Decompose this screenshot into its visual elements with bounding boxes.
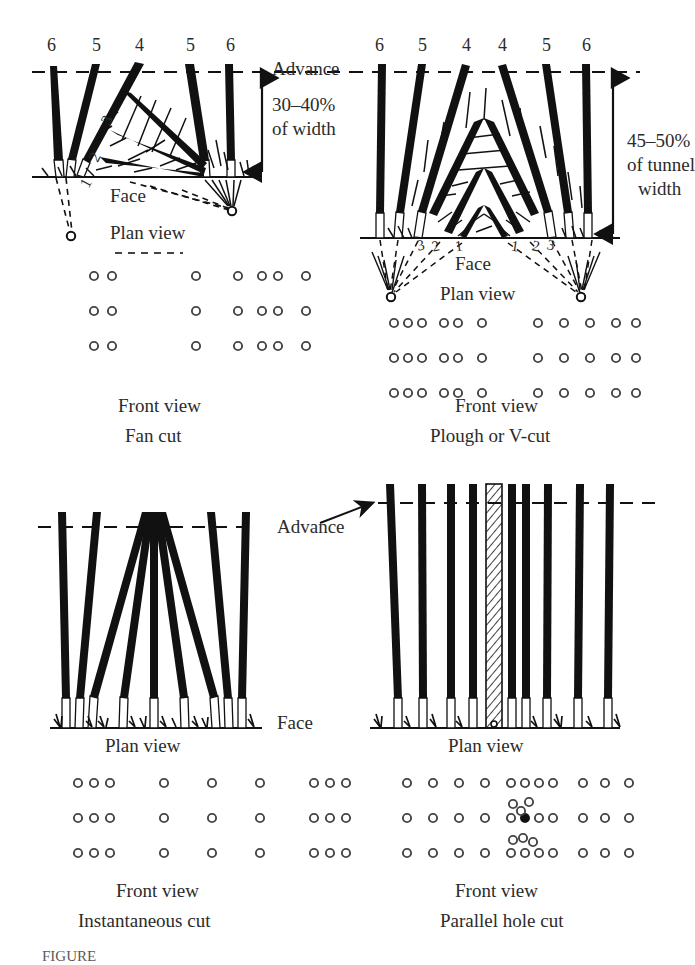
- plan-view-label-vcut: Plan view: [440, 283, 515, 305]
- blast-hole-dot: [342, 814, 350, 822]
- blast-hole-dot: [90, 849, 98, 857]
- blast-hole-dot: [534, 319, 542, 327]
- blast-hole-dot: [579, 849, 587, 857]
- blast-hole-dot: [549, 849, 557, 857]
- fan-rig-left: [67, 232, 75, 240]
- blast-hole-dot: [507, 849, 515, 857]
- blast-hole-dot: [302, 342, 310, 350]
- blast-hole-dot: [579, 779, 587, 787]
- blast-hole-dot: [509, 836, 517, 844]
- face-label-inst: Face: [277, 712, 313, 734]
- panel-title-fan: Fan cut: [125, 425, 181, 447]
- blast-hole-dot: [208, 779, 216, 787]
- blast-hole-dot: [560, 319, 568, 327]
- blast-hole-dot: [258, 272, 266, 280]
- blast-hole-dot: [521, 849, 529, 857]
- plan-view-label-inst: Plan view: [105, 735, 180, 757]
- blast-hole-dot: [418, 319, 426, 327]
- blast-hole-dot: [208, 814, 216, 822]
- blast-hole-dot: [429, 849, 437, 857]
- blast-hole-dot: [74, 779, 82, 787]
- panel-title-parallel: Parallel hole cut: [440, 910, 563, 932]
- plan-view-label-fan: Plan view: [110, 222, 185, 244]
- blast-hole-dot: [390, 354, 398, 362]
- dimension-label-vcut-line1: 45–50%: [627, 130, 690, 152]
- blast-hole-dot: [535, 779, 543, 787]
- blast-hole-dot: [106, 814, 114, 822]
- blast-hole-dot: [601, 849, 609, 857]
- blast-hole-dot: [525, 798, 533, 806]
- panel-title-inst: Instantaneous cut: [78, 910, 210, 932]
- panel-instantaneous-plan: [38, 512, 262, 728]
- blast-hole-dot: [455, 814, 463, 822]
- blast-hole-dot: [106, 849, 114, 857]
- blast-hole-dot: [534, 389, 542, 397]
- hole-number-fan-4: 5: [186, 35, 195, 56]
- blast-hole-dot: [256, 779, 264, 787]
- vcut-rig-left: [387, 293, 395, 301]
- advance-label-fan: Advance: [272, 58, 340, 80]
- face-label-fan: Face: [110, 185, 146, 207]
- blast-hole-dot: [517, 807, 525, 815]
- hole-number-vcut-4: 4: [498, 35, 507, 56]
- blast-hole-dot: [507, 814, 515, 822]
- dimension-label-vcut-line2: of tunnel: [627, 154, 695, 176]
- blast-hole-dot: [256, 849, 264, 857]
- blast-hole-dot: [534, 354, 542, 362]
- blast-hole-dot: [274, 307, 282, 315]
- blast-hole-dot: [160, 814, 168, 822]
- blast-hole-dot: [302, 307, 310, 315]
- blast-hole-dot: [234, 307, 242, 315]
- parallel-holes: [386, 484, 614, 728]
- blast-hole-dot: [90, 814, 98, 822]
- blast-hole-dot: [90, 342, 98, 350]
- blast-hole-dot: [404, 319, 412, 327]
- blast-hole-dot: [390, 319, 398, 327]
- blast-hole-dot: [106, 779, 114, 787]
- panel-parallel-plan: [320, 484, 655, 728]
- blast-hole-dot: [601, 814, 609, 822]
- fan-rig-right: [228, 207, 236, 215]
- blast-hole-dot: [454, 389, 462, 397]
- blast-hole-dot: [549, 814, 557, 822]
- blast-hole-dot: [478, 319, 486, 327]
- blast-hole-dot: [418, 354, 426, 362]
- hole-number-vcut-2: 5: [418, 35, 427, 56]
- blast-hole-dot: [90, 272, 98, 280]
- blast-hole-dot: [192, 307, 200, 315]
- blast-hole-dot: [612, 389, 620, 397]
- front-view-dots-inst: [62, 775, 364, 905]
- blast-hole-dot: [256, 814, 264, 822]
- blast-hole-dot: [478, 389, 486, 397]
- blast-hole-dot: [74, 814, 82, 822]
- blast-hole-dot: [519, 834, 527, 842]
- blast-hole-dot: [586, 389, 594, 397]
- vcut-holes: [376, 64, 592, 238]
- blast-hole-dot: [601, 779, 609, 787]
- blast-hole-dot: [326, 814, 334, 822]
- blast-hole-dot: [108, 342, 116, 350]
- blast-hole-dot: [549, 779, 557, 787]
- blast-hole-dot: [440, 354, 448, 362]
- blast-hole-dot: [418, 389, 426, 397]
- blast-hole-dot: [234, 342, 242, 350]
- blast-hole-dot: [326, 779, 334, 787]
- blast-hole-dot: [529, 838, 537, 846]
- blast-hole-dot: [612, 319, 620, 327]
- blast-hole-dot: [192, 272, 200, 280]
- hole-number-fan-5: 6: [226, 35, 235, 56]
- blast-hole-dot: [342, 779, 350, 787]
- blast-hole-dot: [507, 779, 515, 787]
- blast-hole-dot: [234, 272, 242, 280]
- blast-hole-dot: [90, 779, 98, 787]
- blast-hole-dot: [342, 849, 350, 857]
- front-view-dots-vcut: [380, 315, 654, 445]
- blast-hole-dot: [612, 354, 620, 362]
- blast-hole-dot: [390, 389, 398, 397]
- fan-holes: [50, 62, 235, 177]
- blast-hole-dot: [160, 779, 168, 787]
- figure-caption: FIGURE: [42, 948, 96, 965]
- dimension-label-vcut-line3: width: [638, 178, 681, 200]
- blast-hole-dot: [586, 354, 594, 362]
